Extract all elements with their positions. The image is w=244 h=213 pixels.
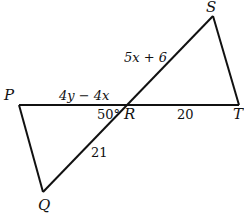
segment-PQ bbox=[19, 105, 43, 192]
point-label-R: R bbox=[124, 107, 135, 122]
diagram: S P R T Q 5x + 6 4y − 4x 20 21 50° bbox=[0, 0, 244, 213]
point-label-T: T bbox=[233, 107, 243, 122]
point-label-S: S bbox=[206, 0, 216, 15]
figure-lines bbox=[0, 0, 244, 213]
point-label-Q: Q bbox=[38, 198, 50, 213]
point-label-P: P bbox=[4, 88, 14, 103]
length-label-RT: 20 bbox=[177, 108, 194, 121]
segment-ST bbox=[213, 16, 239, 105]
length-label-QR: 21 bbox=[91, 146, 108, 159]
angle-label-PRQ: 50° bbox=[97, 108, 120, 121]
length-label-PR: 4y − 4x bbox=[59, 89, 109, 102]
length-label-RS: 5x + 6 bbox=[124, 51, 167, 64]
